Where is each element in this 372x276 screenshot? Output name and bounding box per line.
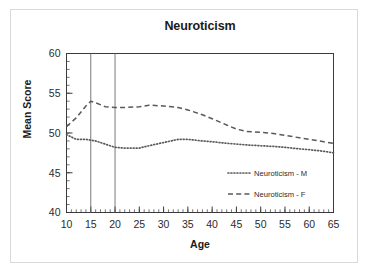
y-tick-label: 50 xyxy=(49,127,61,139)
legend-label: Neuroticism - M xyxy=(254,169,307,178)
y-tick-label: 40 xyxy=(49,206,61,218)
x-tick-label: 55 xyxy=(279,218,291,230)
reference-lines xyxy=(91,54,115,213)
y-axis-tick-labels: 4045505560 xyxy=(49,47,61,218)
plot-area: 4045505560 101520253035404550556065 Neur… xyxy=(0,0,372,276)
y-tick-label: 60 xyxy=(49,47,61,59)
x-tick-label: 10 xyxy=(61,218,73,230)
x-axis-tick-labels: 101520253035404550556065 xyxy=(61,218,340,230)
x-tick-label: 65 xyxy=(328,218,340,230)
x-tick-label: 20 xyxy=(109,218,121,230)
axis-minor-ticks xyxy=(67,54,334,213)
x-tick-label: 50 xyxy=(255,218,267,230)
x-tick-label: 25 xyxy=(133,218,145,230)
x-tick-label: 35 xyxy=(182,218,194,230)
y-tick-label: 45 xyxy=(49,167,61,179)
x-tick-label: 40 xyxy=(206,218,218,230)
chart-legend: Neuroticism - MNeuroticism - F xyxy=(221,160,325,209)
y-tick-label: 55 xyxy=(49,87,61,99)
data-series xyxy=(67,101,334,153)
axis-major-ticks xyxy=(67,54,334,213)
legend-label: Neuroticism - F xyxy=(254,190,306,199)
x-tick-label: 15 xyxy=(85,218,97,230)
x-tick-label: 45 xyxy=(231,218,243,230)
chart-figure: Neuroticism Mean Score Age 4045505560 10… xyxy=(0,0,372,276)
x-tick-label: 30 xyxy=(158,218,170,230)
x-tick-label: 60 xyxy=(303,218,315,230)
plot-frame xyxy=(67,54,334,213)
